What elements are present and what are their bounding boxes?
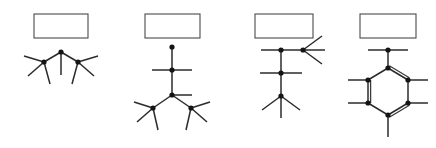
answer-box-3[interactable] [255, 14, 313, 38]
atom-dot [278, 93, 283, 98]
answer-box-4[interactable] [360, 14, 416, 38]
atom-dot [365, 77, 370, 82]
atom-dot [150, 105, 155, 110]
answer-box-2[interactable] [145, 14, 200, 38]
atom-dot [278, 70, 283, 75]
atom-dot [300, 47, 305, 52]
atom-dot [405, 77, 410, 82]
worksheet-canvas [0, 0, 436, 148]
atom-dot [169, 44, 174, 49]
atom-dot [405, 100, 410, 105]
answer-box-1[interactable] [34, 14, 88, 38]
atom-dot [58, 49, 63, 54]
atom-dot [41, 59, 46, 64]
atom-dot [385, 65, 390, 70]
atom-dot [188, 105, 193, 110]
atom-dot [385, 47, 390, 52]
atom-dot [385, 112, 390, 117]
atom-dot [169, 92, 174, 97]
atom-dot [278, 47, 283, 52]
atom-dot [169, 67, 174, 72]
atom-dot [75, 59, 80, 64]
atom-dot [365, 100, 370, 105]
structures-diagram [0, 0, 436, 148]
